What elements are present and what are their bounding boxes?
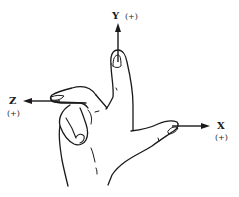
y-axis-arrowhead <box>115 23 121 32</box>
z-axis-sign: (+) <box>7 110 20 118</box>
hand-illustration <box>0 0 239 197</box>
z-axis-label: Z <box>9 96 16 106</box>
y-axis-label: Y <box>112 11 119 21</box>
middle-nail <box>51 95 64 100</box>
right-hand-rule-diagram: Y (+) Z (+) X (+) <box>0 0 239 197</box>
index-finger <box>111 50 133 130</box>
x-axis-arrowhead <box>201 123 210 129</box>
y-axis-sign: (+) <box>125 13 138 21</box>
thumb <box>108 121 178 185</box>
palm-left-edge <box>59 126 68 186</box>
curled-fingers <box>59 105 87 145</box>
x-axis-sign: (+) <box>215 134 228 142</box>
z-axis-arrowhead <box>23 98 32 104</box>
x-axis-label: X <box>217 121 225 131</box>
index-nail <box>113 55 121 68</box>
middle-finger <box>51 86 96 108</box>
